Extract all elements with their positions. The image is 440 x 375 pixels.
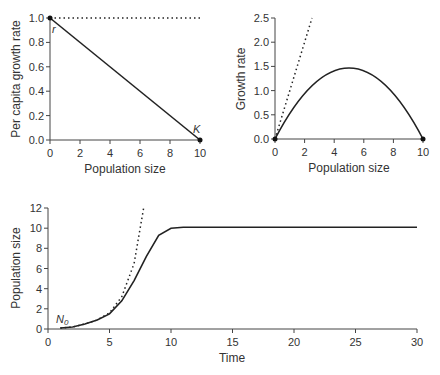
x-tick: 4 bbox=[331, 146, 337, 158]
x-tick: 6 bbox=[361, 146, 367, 158]
x-tick: 10 bbox=[417, 146, 429, 158]
x-tick: 2 bbox=[77, 147, 83, 159]
r-label: r bbox=[52, 23, 57, 35]
n0-label-main: N bbox=[56, 313, 64, 325]
x-tick: 8 bbox=[167, 147, 173, 159]
chart-population-time: 0 2 4 6 8 10 12 0 5 10 15 20 25 30 N0 Ti… bbox=[9, 202, 423, 365]
y-tick: 0.2 bbox=[29, 110, 44, 122]
n0-label: N0 bbox=[56, 313, 69, 327]
chart-per-capita: 0.0 0.2 0.4 0.6 0.8 1.0 0 2 4 6 8 10 r K… bbox=[9, 12, 206, 176]
k-point bbox=[198, 138, 203, 143]
y-tick: 0.5 bbox=[254, 109, 269, 121]
x-tick: 4 bbox=[107, 147, 113, 159]
y-tick: 8 bbox=[36, 242, 42, 254]
x-tick: 0 bbox=[47, 147, 53, 159]
origin-point bbox=[273, 137, 278, 142]
x-tick: 20 bbox=[288, 336, 300, 348]
figure: 0.0 0.2 0.4 0.6 0.8 1.0 0 2 4 6 8 10 r K… bbox=[0, 0, 440, 375]
x-tick: 2 bbox=[302, 146, 308, 158]
y-tick: 1.5 bbox=[254, 60, 269, 72]
x-tick: 0 bbox=[272, 146, 278, 158]
y-axis-label: Per capita growth rate bbox=[9, 20, 23, 138]
x-tick: 8 bbox=[390, 146, 396, 158]
dotted-tangent-line bbox=[275, 18, 312, 139]
y-axis-label: Population size bbox=[9, 227, 23, 309]
y-tick: 0.8 bbox=[29, 36, 44, 48]
n0-label-sub: 0 bbox=[64, 318, 69, 327]
y-tick: 1.0 bbox=[29, 12, 44, 24]
y-tick: 12 bbox=[30, 202, 42, 214]
x-tick: 15 bbox=[226, 336, 238, 348]
x-axis-label: Population size bbox=[308, 161, 390, 175]
logistic-line bbox=[50, 18, 200, 140]
x-tick: 10 bbox=[194, 147, 206, 159]
y-tick: 6 bbox=[36, 263, 42, 275]
logistic-population-curve bbox=[60, 227, 417, 328]
x-tick: 0 bbox=[45, 336, 51, 348]
y-tick: 10 bbox=[30, 222, 42, 234]
x-tick: 25 bbox=[349, 336, 361, 348]
y-tick: 0 bbox=[36, 323, 42, 335]
y-tick: 0.4 bbox=[29, 85, 44, 97]
k-label: K bbox=[193, 123, 201, 135]
x-tick: 10 bbox=[165, 336, 177, 348]
y-tick: 2.0 bbox=[254, 36, 269, 48]
x-axis-label: Population size bbox=[84, 162, 166, 176]
logistic-growth-curve bbox=[275, 68, 423, 139]
x-tick: 30 bbox=[411, 336, 423, 348]
y-tick: 2 bbox=[36, 303, 42, 315]
dotted-exponential-curve bbox=[60, 206, 144, 328]
y-tick: 4 bbox=[36, 283, 42, 295]
y-tick: 0.0 bbox=[29, 134, 44, 146]
r-point bbox=[48, 16, 53, 21]
x-tick: 6 bbox=[137, 147, 143, 159]
y-tick: 1.0 bbox=[254, 85, 269, 97]
chart-growth-rate: 0.0 0.5 1.0 1.5 2.0 2.5 0 2 4 6 8 10 Pop… bbox=[234, 12, 429, 175]
y-tick: 0.0 bbox=[254, 133, 269, 145]
x-tick: 5 bbox=[106, 336, 112, 348]
x-axis-label: Time bbox=[219, 351, 246, 365]
k-point bbox=[421, 137, 426, 142]
y-axis-label: Growth rate bbox=[234, 47, 248, 110]
y-tick: 0.6 bbox=[29, 61, 44, 73]
y-tick: 2.5 bbox=[254, 12, 269, 24]
